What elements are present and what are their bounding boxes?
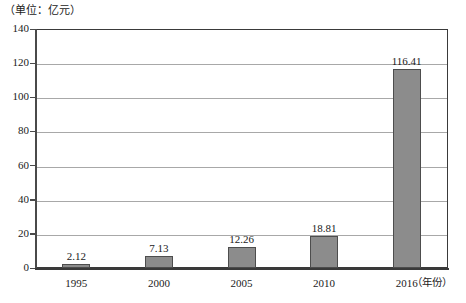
bar-value-label: 2.12 xyxy=(41,250,111,262)
bar xyxy=(145,256,173,268)
x-axis-title: （年份） xyxy=(412,277,452,289)
bar xyxy=(393,69,421,268)
bar xyxy=(310,236,338,268)
bar xyxy=(228,247,256,268)
x-tick-label: 1995 xyxy=(46,277,106,289)
bars-layer: 2.127.1312.2618.81116.41 xyxy=(0,0,466,303)
bar-chart: （单位：亿元） 020406080100120140 2.127.1312.26… xyxy=(0,0,466,303)
bar-value-label: 12.26 xyxy=(207,233,277,245)
x-tick-label: 2000 xyxy=(129,277,189,289)
x-tick-label: 2005 xyxy=(212,277,272,289)
bar-value-label: 7.13 xyxy=(124,242,194,254)
x-tick-label: 2010 xyxy=(294,277,354,289)
bar-value-label: 116.41 xyxy=(372,55,442,67)
bar-value-label: 18.81 xyxy=(289,222,359,234)
bar xyxy=(62,264,90,268)
